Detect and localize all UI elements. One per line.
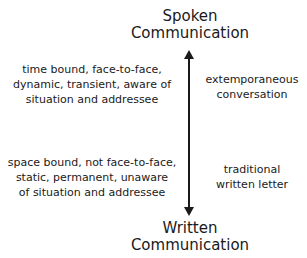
spoken-example-line2: conversation xyxy=(198,87,306,102)
written-characteristics-line1: space bound, not face-to-face, xyxy=(2,155,182,170)
double-arrow-icon xyxy=(183,50,195,216)
written-communication-label: Written Communication xyxy=(120,220,260,254)
written-example-line2: written letter xyxy=(198,177,306,192)
spoken-communication-label: Spoken Communication xyxy=(120,8,260,42)
spoken-label-line2: Communication xyxy=(120,25,260,42)
written-label-line1: Written xyxy=(120,220,260,237)
spoken-example-line1: extemporaneous xyxy=(198,72,306,87)
spoken-characteristics-line3: situation and addressee xyxy=(2,92,182,107)
spoken-characteristics: time bound, face-to-face, dynamic, trans… xyxy=(2,62,182,107)
spoken-example: extemporaneous conversation xyxy=(198,72,306,102)
written-example: traditional written letter xyxy=(198,162,306,192)
written-label-line2: Communication xyxy=(120,237,260,254)
written-example-line1: traditional xyxy=(198,162,306,177)
spoken-label-line1: Spoken xyxy=(120,8,260,25)
written-characteristics-line2: static, permanent, unaware xyxy=(2,170,182,185)
spoken-characteristics-line2: dynamic, transient, aware of xyxy=(2,77,182,92)
written-characteristics: space bound, not face-to-face, static, p… xyxy=(2,155,182,200)
written-characteristics-line3: of situation and addressee xyxy=(2,185,182,200)
spoken-characteristics-line1: time bound, face-to-face, xyxy=(2,62,182,77)
